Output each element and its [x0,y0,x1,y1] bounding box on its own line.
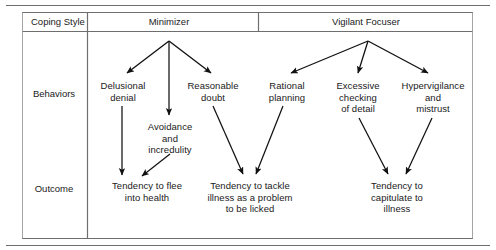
column-header-minimizer: Minimizer [149,16,190,28]
node-excessive-checking-of-detail: Excessive checking of detail [336,80,379,115]
table-corner-header: Coping Style [31,16,85,28]
node-hypervigilance-and-mistrust: Hypervigilance and mistrust [401,80,464,115]
edges-vigilant [291,41,428,73]
edges-minimizer [127,41,211,115]
node-delusional-denial: Delusional denial [101,80,146,103]
column-header-vigilant-focuser: Vigilant Focuser [332,16,400,28]
edge-vigilant-hypervigilance [368,41,428,73]
node-reasonable-doubt: Reasonable doubt [187,80,238,103]
edge-excessive-capitulate [359,118,388,174]
node-tendency-to-tackle-illness: Tendency to tackle illness as a problem … [208,180,293,215]
node-avoidance-and-incredulity: Avoidance and incredulity [148,121,193,156]
node-rational-planning: Rational planning [269,80,305,103]
edge-minimizer-delusional [127,41,169,73]
coping-style-flow-diagram: Coping Style Minimizer Vigilant Focuser … [0,0,496,250]
edge-rational-tackle [256,106,283,174]
edge-avoidance-flee [142,154,170,176]
row-label-outcome: Outcome [35,183,74,195]
edge-minimizer-reasonable [169,41,211,73]
edge-hypervigilance-capitulate [406,118,432,174]
edge-reasonable-tackle [213,106,243,174]
edge-vigilant-rational [291,41,368,73]
node-tendency-to-flee-into-health: Tendency to flee into health [112,180,182,203]
node-tendency-to-capitulate-to-illness: Tendency to capitulate to illness [371,180,423,215]
row-label-behaviors: Behaviors [33,88,75,100]
edge-vigilant-excessive [358,41,368,73]
